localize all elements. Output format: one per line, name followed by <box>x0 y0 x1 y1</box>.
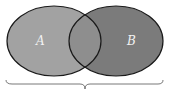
set-b-label: B <box>126 34 136 48</box>
venn-diagram: A B <box>0 0 172 91</box>
brace-icon <box>6 80 163 89</box>
set-a-label: A <box>35 34 45 48</box>
